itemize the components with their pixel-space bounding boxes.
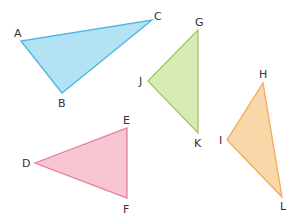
triangle-gjk-shape [148, 30, 198, 133]
triangle-abc-shape [21, 20, 152, 93]
vertex-label-g: G [195, 16, 204, 29]
triangle-gjk: G J K [138, 16, 204, 150]
triangle-def-shape [35, 128, 127, 198]
triangle-hil: H I L [219, 68, 287, 213]
vertex-label-e: E [123, 114, 130, 127]
vertex-label-c: C [154, 10, 162, 23]
triangle-def: D E F [22, 114, 130, 216]
vertex-label-a: A [14, 27, 22, 40]
vertex-label-b: B [58, 97, 66, 110]
vertex-label-f: F [123, 203, 129, 216]
vertex-label-k: K [194, 137, 202, 150]
vertex-label-h: H [259, 68, 267, 81]
triangle-hil-shape [227, 83, 282, 197]
triangle-abc: A B C [14, 10, 162, 110]
vertex-label-d: D [22, 157, 30, 170]
vertex-label-l: L [280, 200, 287, 213]
vertex-label-j: J [138, 75, 142, 88]
triangles-diagram: A B C G J K H I L D E F [0, 0, 304, 224]
vertex-label-i: I [219, 134, 222, 147]
